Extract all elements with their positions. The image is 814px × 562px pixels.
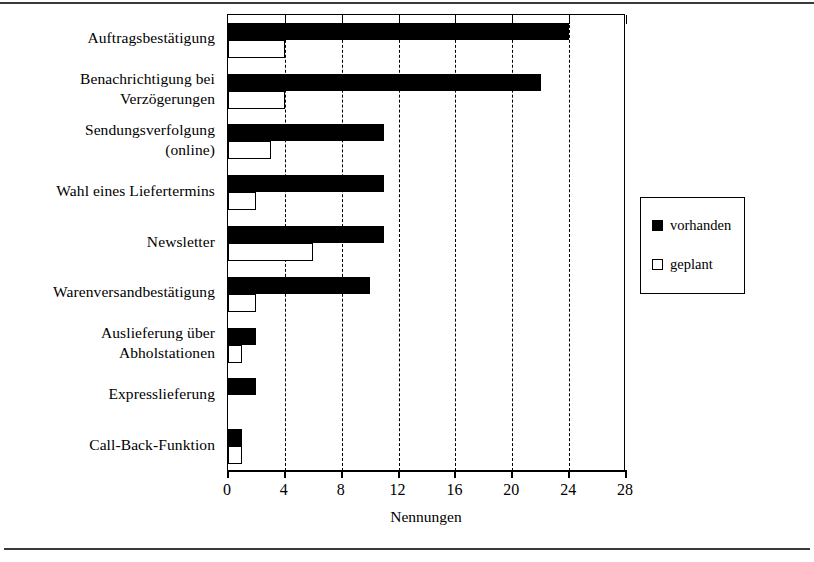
category-label: Expresslieferung [0, 384, 215, 404]
category-label-line: Warenversandbestätigung [0, 282, 215, 302]
bar-group [228, 175, 624, 210]
bar-group [228, 124, 624, 159]
category-label-line: Expresslieferung [0, 384, 215, 404]
bar-geplant [228, 40, 285, 58]
category-label-line: Auslieferung über [0, 323, 215, 343]
legend-label: vorhanden [670, 217, 731, 234]
category-label: Newsletter [0, 232, 215, 252]
bar-geplant [228, 345, 242, 363]
bar-geplant [228, 243, 313, 261]
bar-vorhanden [228, 74, 541, 91]
category-label-line: Wahl eines Liefertermins [0, 181, 215, 201]
top-tick [626, 15, 627, 24]
bar-group [228, 74, 624, 109]
bar-vorhanden [228, 175, 384, 192]
bar-vorhanden [228, 378, 256, 395]
x-tick [454, 470, 456, 478]
category-label: Warenversandbestätigung [0, 282, 215, 302]
bar-group [228, 226, 624, 261]
bar-vorhanden [228, 277, 370, 294]
bar-group [228, 378, 624, 413]
category-label-line: Abholstationen [0, 343, 215, 363]
bar-geplant [228, 446, 242, 464]
bar-vorhanden [228, 328, 256, 345]
page-bottom-rule [4, 548, 810, 550]
category-label-line: Sendungsverfolgung [0, 120, 215, 140]
x-tick [227, 470, 229, 478]
legend-label: geplant [670, 256, 713, 273]
category-label-line: Newsletter [0, 232, 215, 252]
x-tick-label: 12 [378, 481, 418, 499]
bar-group [228, 328, 624, 363]
category-label-line: Benachrichtigung bei [0, 69, 215, 89]
bar-vorhanden [228, 23, 569, 40]
bar-group [228, 429, 624, 464]
bar-vorhanden [228, 124, 384, 141]
open-square-icon [652, 259, 663, 270]
bar-geplant [228, 91, 285, 109]
category-label: Auslieferung überAbholstationen [0, 323, 215, 363]
plot-inner [228, 15, 624, 471]
x-tick [284, 470, 286, 478]
x-axis-line [227, 470, 625, 472]
x-tick [511, 470, 513, 478]
category-label: Wahl eines Liefertermins [0, 181, 215, 201]
x-tick-label: 16 [434, 481, 474, 499]
x-tick-label: 20 [491, 481, 531, 499]
plot-area [227, 14, 625, 471]
category-label-line: Auftragsbestätigung [0, 28, 215, 48]
bar-geplant [228, 192, 256, 210]
x-tick [341, 470, 343, 478]
x-tick [568, 470, 570, 478]
category-label: Sendungsverfolgung(online) [0, 120, 215, 160]
legend-entry-vorhanden: vorhanden [652, 217, 731, 234]
x-axis-title: Nennungen [227, 508, 625, 526]
category-label-line: Call-Back-Funktion [0, 435, 215, 455]
bar-group [228, 277, 624, 312]
chart-legend: vorhanden geplant [640, 197, 745, 294]
bar-group [228, 23, 624, 58]
x-tick-label: 24 [548, 481, 588, 499]
bar-vorhanden [228, 226, 384, 243]
x-tick [398, 470, 400, 478]
x-tick-label: 0 [207, 481, 247, 499]
x-tick-label: 8 [321, 481, 361, 499]
bar-vorhanden [228, 429, 242, 446]
category-label-line: (online) [0, 140, 215, 160]
category-label-line: Verzögerungen [0, 89, 215, 109]
bar-geplant [228, 294, 256, 312]
bar-geplant [228, 141, 271, 159]
x-tick-label: 28 [605, 481, 645, 499]
page-top-rule [0, 2, 814, 4]
category-label: Auftragsbestätigung [0, 28, 215, 48]
category-axis-labels: AuftragsbestätigungBenachrichtigung beiV… [0, 14, 215, 471]
category-label: Benachrichtigung beiVerzögerungen [0, 69, 215, 109]
filled-square-icon [652, 220, 663, 231]
x-tick-label: 4 [264, 481, 304, 499]
category-label: Call-Back-Funktion [0, 435, 215, 455]
x-tick [625, 470, 627, 478]
legend-entry-geplant: geplant [652, 256, 713, 273]
